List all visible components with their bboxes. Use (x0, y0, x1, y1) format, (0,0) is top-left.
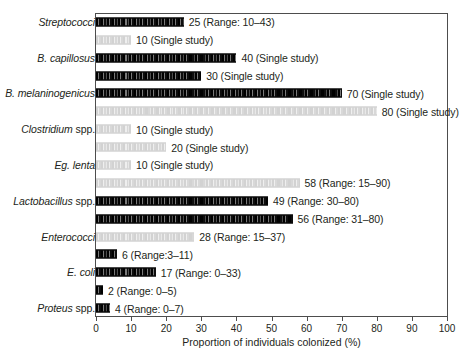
category-label: Enterococci (41, 231, 95, 243)
bar-row: B. capillosus40 (Single study) (0, 49, 467, 67)
bar-row: 30 (Single study) (0, 67, 467, 85)
x-tick-mark (236, 317, 237, 321)
x-tick-label: 40 (231, 323, 242, 334)
bar-value-label: 49 (Range: 30–80) (273, 195, 359, 207)
bar (96, 268, 156, 277)
x-tick-mark (412, 317, 413, 321)
bar-value-label: 28 (Range: 15–37) (199, 231, 285, 243)
x-tick-mark (307, 317, 308, 321)
bar-track: 80 (Single study) (96, 107, 447, 116)
bar-value-label: 30 (Single study) (206, 70, 283, 82)
bar-row: 56 (Range: 31–80) (0, 210, 467, 228)
bar-row: E. coli17 (Range: 0–33) (0, 263, 467, 281)
category-label: B. capillosus (37, 52, 95, 64)
bar-track: 70 (Single study) (96, 89, 447, 98)
bar-track: 56 (Range: 31–80) (96, 214, 447, 223)
bar-track: 49 (Range: 30–80) (96, 196, 447, 205)
bar-value-label: 10 (Single study) (136, 123, 213, 135)
x-tick-label: 10 (126, 323, 137, 334)
bar-value-label: 40 (Single study) (241, 52, 318, 64)
bar-track: 17 (Range: 0–33) (96, 268, 447, 277)
bar (96, 107, 377, 116)
category-label: Streptococci (38, 16, 95, 28)
x-tick-mark (342, 317, 343, 321)
bar-row: 58 (Range: 15–90) (0, 174, 467, 192)
bar-track: 25 (Range: 10–43) (96, 17, 447, 26)
bar-value-label: 2 (Range: 0–5) (108, 284, 177, 296)
category-label: Lactobacillus spp. (13, 195, 95, 207)
bar-track: 10 (Single study) (96, 160, 447, 169)
x-axis-title: Proportion of individuals colonized (%) (95, 336, 448, 348)
bar-track: 10 (Single study) (96, 125, 447, 134)
bar-rows-container: Streptococci25 (Range: 10–43)10 (Single … (0, 13, 467, 317)
category-label: B. melaninogenicus (5, 87, 95, 99)
x-tick-mark (377, 317, 378, 321)
bar (96, 17, 184, 26)
bar (96, 304, 110, 313)
bar (96, 214, 293, 223)
category-label: Clostridium spp. (21, 123, 95, 135)
x-tick-label: 70 (336, 323, 347, 334)
bar (96, 143, 166, 152)
bar (96, 196, 268, 205)
bar-track: 28 (Range: 15–37) (96, 232, 447, 241)
x-axis: 0102030405060708090100 (95, 317, 448, 337)
bar (96, 71, 201, 80)
bar-value-label: 80 (Single study) (382, 105, 459, 117)
bar-row: Enterococci28 (Range: 15–37) (0, 228, 467, 246)
bar (96, 125, 131, 134)
bar-chart: Streptococci25 (Range: 10–43)10 (Single … (0, 0, 467, 356)
x-tick-label: 100 (439, 323, 456, 334)
bar-row: Proteus spp.4 (Range: 0–7) (0, 299, 467, 317)
bar-value-label: 25 (Range: 10–43) (189, 16, 275, 28)
bar-track: 30 (Single study) (96, 71, 447, 80)
x-tick-mark (447, 317, 448, 321)
bar-row: Streptococci25 (Range: 10–43) (0, 13, 467, 31)
bar-track: 4 (Range: 0–7) (96, 304, 447, 313)
bar-row: Eg. lenta10 (Single study) (0, 156, 467, 174)
bar-value-label: 10 (Single study) (136, 159, 213, 171)
bar-value-label: 20 (Single study) (171, 141, 248, 153)
x-tick-label: 50 (266, 323, 277, 334)
bar-value-label: 6 (Range:3–11) (122, 248, 193, 260)
bar-row: Clostridium spp.10 (Single study) (0, 120, 467, 138)
category-label: Eg. lenta (54, 159, 95, 171)
x-tick-label: 20 (161, 323, 172, 334)
x-tick-mark (96, 317, 97, 321)
bar (96, 53, 236, 62)
bar-value-label: 58 (Range: 15–90) (305, 177, 391, 189)
bar (96, 286, 103, 295)
bar-value-label: 10 (Single study) (136, 34, 213, 46)
bar-row: 20 (Single study) (0, 138, 467, 156)
bar-row: Lactobacillus spp.49 (Range: 30–80) (0, 192, 467, 210)
bar (96, 250, 117, 259)
bar-row: B. melaninogenicus70 (Single study) (0, 85, 467, 103)
x-tick-label: 60 (301, 323, 312, 334)
bar-row: 80 (Single study) (0, 102, 467, 120)
bar-row: 6 (Range:3–11) (0, 245, 467, 263)
bar-row: 2 (Range: 0–5) (0, 281, 467, 299)
bar-track: 10 (Single study) (96, 35, 447, 44)
x-tick-label: 80 (371, 323, 382, 334)
bar (96, 160, 131, 169)
bar-track: 58 (Range: 15–90) (96, 178, 447, 187)
bar-track: 40 (Single study) (96, 53, 447, 62)
bar-row: 10 (Single study) (0, 31, 467, 49)
x-tick-mark (201, 317, 202, 321)
bar (96, 232, 194, 241)
bar-track: 6 (Range:3–11) (96, 250, 447, 259)
bar-value-label: 56 (Range: 31–80) (298, 213, 384, 225)
bar (96, 89, 342, 98)
category-label: E. coli (67, 266, 95, 278)
bar-track: 2 (Range: 0–5) (96, 286, 447, 295)
bar-value-label: 70 (Single study) (347, 87, 424, 99)
category-label: Proteus spp. (37, 302, 95, 314)
x-tick-mark (166, 317, 167, 321)
x-tick-mark (272, 317, 273, 321)
x-tick-label: 90 (406, 323, 417, 334)
bar-value-label: 17 (Range: 0–33) (161, 266, 241, 278)
x-tick-label: 30 (196, 323, 207, 334)
bar (96, 178, 300, 187)
bar (96, 35, 131, 44)
bar-track: 20 (Single study) (96, 143, 447, 152)
